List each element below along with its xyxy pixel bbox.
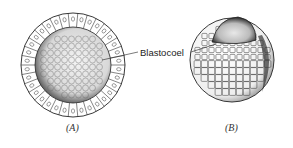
panel-a-inner-cavity (35, 27, 111, 103)
caption-a: (A) (66, 122, 79, 134)
blastula-figure: Blastocoel (A) (B) (0, 0, 293, 148)
caption-b: (B) (225, 122, 238, 134)
panel-b-blastula (190, 17, 274, 102)
blastocoel-label: Blastocoel (140, 47, 184, 58)
panel-a-blastula (21, 13, 125, 117)
